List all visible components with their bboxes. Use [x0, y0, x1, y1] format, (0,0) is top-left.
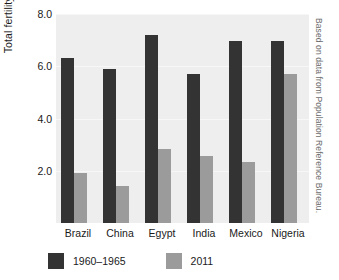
bar-china-current [116, 186, 129, 223]
bar-group [57, 14, 99, 223]
bar-mexico-current [242, 162, 255, 223]
bar-group [183, 14, 225, 223]
bar-india-historic [187, 74, 200, 223]
source-credit: Based on data from Population Reference … [312, 18, 324, 228]
bar-mexico-historic [229, 41, 242, 223]
plot-area [56, 14, 309, 223]
bar-india-current [200, 156, 213, 223]
bar-brazil-historic [61, 58, 74, 223]
y-tick-label: 6.0 [12, 60, 52, 72]
bar-group [141, 14, 183, 223]
fertility-rate-bar-chart: Total fertility rate 8.06.04.02.0 Brazil… [0, 0, 339, 280]
legend-swatch [48, 253, 64, 269]
legend-label: 1960–1965 [73, 255, 126, 267]
bar-nigeria-current [284, 74, 297, 223]
bar-group [99, 14, 141, 223]
bar-egypt-historic [145, 35, 158, 223]
bar-group [225, 14, 267, 223]
legend-label: 2011 [191, 255, 214, 267]
bar-nigeria-historic [271, 41, 284, 223]
y-tick-label: 2.0 [12, 165, 52, 177]
y-tick-label: 4.0 [12, 113, 52, 125]
bar-china-historic [103, 69, 116, 223]
legend-item[interactable]: 2011 [166, 253, 214, 269]
legend-swatch [166, 253, 182, 269]
bar-egypt-current [158, 149, 171, 223]
chart-legend: 1960–19652011 [48, 250, 213, 272]
bar-brazil-current [74, 173, 87, 223]
legend-item[interactable]: 1960–1965 [48, 253, 126, 269]
bar-group [267, 14, 309, 223]
x-tick-label-nigeria: Nigeria [260, 226, 316, 240]
y-axis-tick-labels: 8.06.04.02.0 [12, 0, 52, 230]
x-axis-tick-labels: BrazilChinaEgyptIndiaMexicoNigeria [56, 226, 309, 242]
y-tick-label: 8.0 [12, 8, 52, 20]
